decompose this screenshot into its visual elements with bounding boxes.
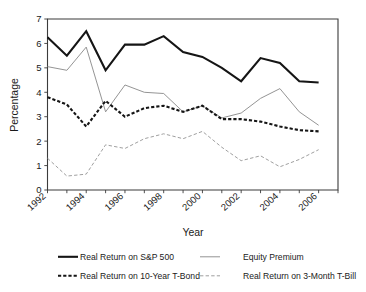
y-tick-label: 7 [36,13,41,24]
legend-label: Real Return on 3-Month T-Bill [243,271,356,281]
x-tick-label: 1992 [25,190,48,212]
legend-label: Equity Premium [243,252,304,262]
x-axis-title: Year [182,226,204,238]
x-tick-label: 2000 [180,190,203,212]
y-axis-ticks: 01234567 [36,13,47,195]
x-tick-label: 1998 [141,190,164,212]
x-tick-label: 2004 [257,190,280,212]
data-series-group [48,31,319,176]
series-line [48,97,319,131]
legend-label: Real Return on 10-Year T-Bond [80,271,200,281]
series-line [48,131,319,176]
x-tick-label: 1996 [102,190,125,212]
legend-label: Real Return on S&P 500 [80,252,174,262]
plot-border [48,19,339,190]
x-tick-label: 2002 [218,190,241,212]
y-tick-label: 2 [36,136,41,147]
y-tick-label: 1 [36,160,41,171]
y-tick-label: 4 [36,87,41,98]
x-tick-label: 1994 [64,190,87,212]
series-line [48,47,319,125]
chart-container: 01234567 1992199419961998200020022004200… [0,0,366,292]
plot-frame [48,19,339,190]
y-tick-label: 3 [36,111,41,122]
y-tick-label: 6 [36,38,41,49]
y-tick-label: 5 [36,62,41,73]
line-chart-figure: 01234567 1992199419961998200020022004200… [0,0,366,292]
series-line [48,31,319,82]
chart-legend: Real Return on S&P 500Equity PremiumReal… [58,252,356,281]
x-tick-label: 2006 [296,190,319,212]
x-axis-ticks: 19921994199619982000200220042006 [25,190,338,213]
y-axis-title: Percentage [8,78,20,132]
